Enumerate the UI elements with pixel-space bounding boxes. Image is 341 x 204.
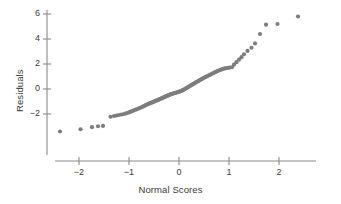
y-tick-label-2: 2 [20, 58, 40, 68]
x-axis-label: Normal Scores [0, 184, 341, 195]
data-point [253, 41, 257, 45]
data-point [58, 129, 62, 133]
x-tick-label-1: −1 [119, 167, 139, 177]
data-point [296, 14, 300, 18]
data-point [108, 115, 112, 119]
normal-probability-plot: Residuals Normal Scores −20246 −2−1012 [0, 0, 341, 204]
y-tick-label-1: 0 [20, 83, 40, 93]
x-tick-label-0: −2 [69, 167, 89, 177]
x-tick-label-2: 0 [169, 167, 189, 177]
data-point [258, 32, 262, 36]
y-tick-label-0: −2 [20, 108, 40, 118]
data-point [242, 52, 246, 56]
data-point [96, 124, 100, 128]
data-point [78, 127, 82, 131]
data-point [101, 124, 105, 128]
x-tick-label-3: 1 [219, 167, 239, 177]
data-point [245, 49, 249, 53]
data-point [264, 23, 268, 27]
y-tick-label-4: 6 [20, 8, 40, 18]
y-tick-label-3: 4 [20, 33, 40, 43]
data-point [90, 125, 94, 129]
axes-group [43, 10, 316, 165]
data-points-group [58, 14, 300, 133]
x-tick-label-4: 2 [269, 167, 289, 177]
data-point [249, 46, 253, 50]
data-point [275, 22, 279, 26]
